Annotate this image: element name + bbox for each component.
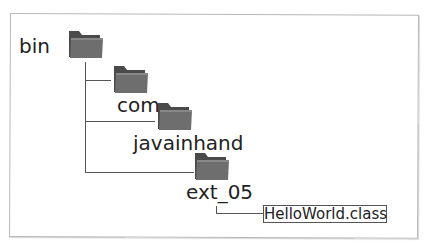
file-helloworld-class: HelloWorld.class <box>263 205 387 223</box>
folder-label-com: com <box>117 94 160 116</box>
folder-icon <box>113 64 149 94</box>
connector-com <box>85 80 111 81</box>
folder-icon <box>194 151 230 181</box>
connector-ext-05 <box>85 172 194 173</box>
connector-javainhand <box>85 121 155 122</box>
tree-trunk-line <box>85 62 86 172</box>
connector-file-horizontal <box>216 213 263 214</box>
folder-icon <box>157 101 193 131</box>
folder-label-ext-05: ext_05 <box>186 181 253 203</box>
folder-icon <box>68 29 104 59</box>
folder-label-bin: bin <box>19 35 50 57</box>
